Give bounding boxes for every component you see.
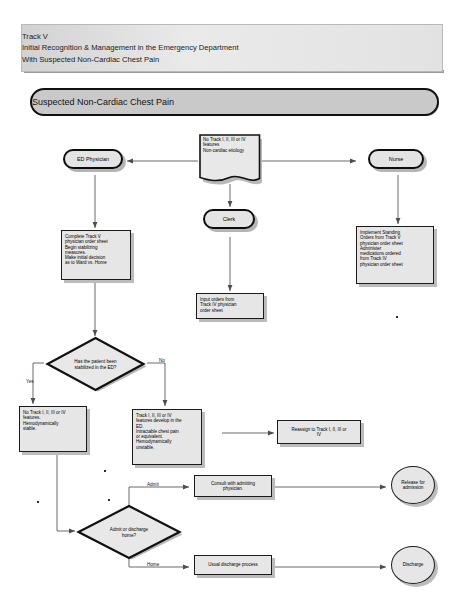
trigger-document-label: No Track I, II, III or IV features Non-c… [203, 137, 257, 153]
discharge-process-label: Usual discharge process [198, 562, 268, 567]
release-admission-label: Release for admission [392, 480, 434, 491]
terminal-node-discharge: Discharge [391, 546, 435, 584]
edge-label-admit: Admit [147, 482, 159, 487]
scan-artifact-speck [37, 501, 39, 503]
stable-outcome-label: No Track I, II, III or IV features. Hemo… [23, 410, 83, 431]
nurse-actions-label: Implement Standing Orders from Track V p… [360, 230, 430, 267]
terminal-node-release-admission: Release for admission [391, 466, 435, 504]
process-node-clerk-actions: Input orders from Track IV physician ord… [196, 293, 264, 319]
process-node-reassign: Reassign to Track I, II, III or IV [277, 420, 361, 444]
process-node-consult: Consult with admitting physician. [194, 475, 272, 497]
role-node-nurse: Nurse [368, 149, 424, 169]
stabilized-decision-label: Has the patient been stabilized in the E… [56, 359, 134, 370]
ed-physician-label: ED Physician [65, 156, 121, 162]
edge-yes-branch [33, 363, 44, 404]
edge-stable-to-admit-decision [57, 455, 75, 531]
reassign-label: Reassign to Track I, II, III or IV [281, 427, 357, 438]
admit-decision-label: Admit or discharge home? [88, 527, 170, 538]
scan-artifact-speck [396, 316, 398, 318]
start-node-label: Suspected Non-Cardiac Chest Pain [32, 97, 437, 108]
process-node-unstable-outcome: Track I, II, III or IV features develop … [132, 409, 202, 465]
role-node-ed-physician: ED Physician [63, 149, 123, 169]
physician-actions-label: Complete Track V physician order sheet B… [65, 234, 127, 266]
start-node: Suspected Non-Cardiac Chest Pain [30, 88, 439, 116]
process-node-stable-outcome: No Track I, II, III or IV features. Hemo… [19, 406, 87, 452]
scan-artifact-speck [108, 499, 110, 501]
role-node-clerk: Clerk [203, 209, 255, 229]
title-banner: Track V Initial Recognition & Management… [21, 24, 443, 72]
page-title: Track V Initial Recognition & Management… [22, 31, 442, 65]
nurse-label: Nurse [370, 156, 422, 162]
process-node-physician-actions: Complete Track V physician order sheet B… [61, 230, 131, 280]
decision-node-admit-discharge: Admit or discharge home? [75, 504, 183, 560]
flowchart-page: Track V Initial Recognition & Management… [0, 0, 460, 603]
clerk-actions-label: Input orders from Track IV physician ord… [200, 297, 260, 313]
clerk-label: Clerk [205, 216, 253, 222]
process-node-nurse-actions: Implement Standing Orders from Track V p… [356, 226, 434, 284]
decision-node-stabilized: Has the patient been stabilized in the E… [44, 336, 147, 392]
process-node-discharge-process: Usual discharge process [194, 555, 272, 575]
edge-label-home: Home [147, 562, 159, 567]
unstable-outcome-label: Track I, II, III or IV features develop … [136, 413, 198, 450]
trigger-document-node: No Track I, II, III or IV features Non-c… [198, 133, 262, 187]
scan-artifact-speck [104, 470, 106, 472]
edge-no-branch [147, 363, 165, 406]
edge-label-no: No [159, 358, 165, 363]
edge-label-yes: Yes [26, 379, 34, 384]
consult-label: Consult with admitting physician. [198, 481, 268, 492]
discharge-label: Discharge [392, 562, 434, 567]
